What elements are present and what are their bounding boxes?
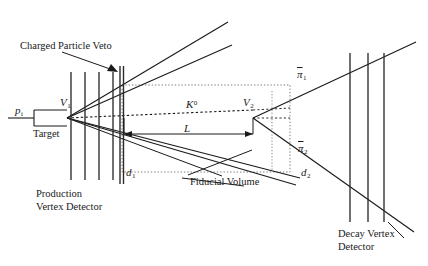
decay-vertex-label: V2 [243,96,254,111]
production-vertex-detector-planes [71,72,113,180]
impact-parameter-1-subscript: 1 [132,172,136,180]
decay-vertex-detector-planes [350,53,384,222]
decay-vertex-detector-line-2: Detector [338,241,395,254]
kaon-superscript: 0 [193,99,197,107]
decay-vertex-detector-line-1: Decay Vertex [338,228,395,241]
kaon-trajectory [67,110,253,118]
production-vertex-subscript: 1 [67,102,71,110]
production-vertex-label: V1 [60,96,71,111]
production-vertex-detector-label: Production Vertex Detector [36,188,102,214]
production-vertex-detector-line-1: Production [36,188,102,201]
production-vertex-detector-line-2: Vertex Detector [36,201,102,214]
pion-2-symbol: π [298,142,304,154]
veto-callout-arrow [62,52,118,72]
decay-vertex-detector-label: Decay Vertex Detector [338,228,395,254]
target-label: Target [33,128,59,140]
incident-beam-label: pi [15,104,23,119]
incident-beam-subscript: i [21,110,23,118]
production-vertex-symbol: V [60,96,67,108]
pion-2-track [253,118,414,232]
impact-parameter-2-symbol: d [301,166,307,178]
pion-1-subscript: 1 [303,74,307,82]
decay-length-label: L [184,122,190,134]
impact-parameter-2-subscript: 2 [307,172,311,180]
figure-canvas: Charged Particle Veto pi V1 Target Produ… [0,0,428,266]
decay-vertex-symbol: V [243,96,250,108]
incident-beam-symbol: p [15,104,21,116]
kaon-label: K0 [186,98,197,110]
pion-1-label: π1 [297,68,306,83]
charged-particle-veto-label: Charged Particle Veto [20,40,112,52]
impact-parameter-2-label: d2 [301,166,310,181]
pion-1-symbol: π [297,68,303,80]
decay-pion-tracks [253,42,416,232]
pion-2-label: π2 [298,142,307,157]
fiducial-volume-label: Fiducial Volume [190,176,259,188]
impact-parameter-1-symbol: d [126,166,132,178]
impact-parameter-1-label: d1 [126,166,135,181]
pion-2-subscript: 2 [304,148,308,156]
target-block [34,110,67,126]
decay-vertex-subscript: 2 [250,102,254,110]
pion-1-track [253,42,416,118]
